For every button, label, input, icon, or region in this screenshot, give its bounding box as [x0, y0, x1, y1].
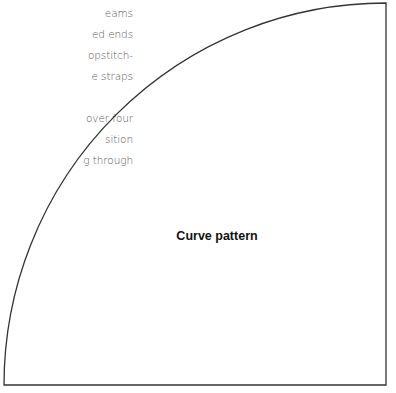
curve-pattern-shape	[0, 0, 396, 393]
pattern-label: Curve pattern	[0, 229, 396, 243]
